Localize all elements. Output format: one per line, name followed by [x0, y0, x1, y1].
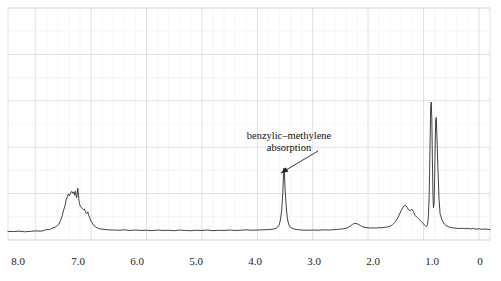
x-tick-label-2-0: 2.0	[356, 255, 390, 267]
spectrum-trace	[8, 102, 490, 232]
benzylic-methylene-annotation: benzylic–methylene absorption	[234, 130, 344, 154]
x-tick-label-0: 0	[463, 255, 497, 267]
x-tick-label-8-0: 8.0	[1, 255, 35, 267]
nmr-spectrum-figure: benzylic–methylene absorption 8.07.06.05…	[0, 0, 501, 281]
annotation-line-1: benzylic–methylene	[234, 130, 344, 142]
annotation-line-2: absorption	[234, 142, 344, 154]
x-tick-label-7-0: 7.0	[61, 255, 95, 267]
x-tick-label-3-0: 3.0	[297, 255, 331, 267]
x-tick-label-6-0: 6.0	[120, 255, 154, 267]
x-tick-label-1-0: 1.0	[415, 255, 449, 267]
x-tick-label-4-0: 4.0	[238, 255, 272, 267]
x-tick-label-5-0: 5.0	[179, 255, 213, 267]
